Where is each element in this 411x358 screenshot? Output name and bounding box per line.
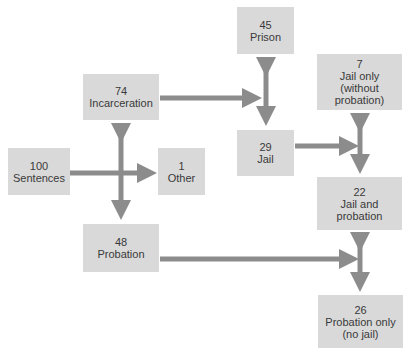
node-value: 1 [178, 160, 184, 172]
node-value: 48 [115, 236, 127, 248]
node-other: 1 Other [158, 148, 205, 195]
node-prison: 45 Prison [237, 7, 294, 54]
node-label: Incarceration [89, 97, 153, 109]
node-label: Probation only [325, 316, 395, 328]
node-label: (without [340, 82, 379, 94]
node-value: 45 [259, 19, 271, 31]
node-jail: 29 Jail [237, 130, 294, 176]
node-label: probation [337, 210, 383, 222]
node-sentences: 100 Sentences [8, 148, 70, 195]
node-jail-and-probation: 22 Jail and probation [317, 177, 402, 230]
node-probation: 48 Probation [83, 224, 159, 272]
node-value: 7 [356, 58, 362, 70]
node-value: 74 [115, 85, 127, 97]
node-label: Sentences [13, 172, 65, 184]
node-label: Prison [250, 31, 281, 43]
node-label: Jail only [340, 70, 380, 82]
node-jail-only: 7 Jail only (without probation) [317, 54, 402, 110]
node-label: Probation [97, 248, 144, 260]
node-label: Jail [257, 153, 274, 165]
node-label: probation) [335, 94, 385, 106]
node-incarceration: 74 Incarceration [83, 74, 159, 120]
node-label: (no jail) [342, 328, 378, 340]
node-value: 26 [354, 304, 366, 316]
node-value: 29 [259, 141, 271, 153]
node-value: 100 [30, 160, 48, 172]
node-label: Other [168, 172, 196, 184]
node-value: 22 [353, 186, 365, 198]
node-probation-only: 26 Probation only (no jail) [318, 295, 403, 348]
node-label: Jail and [341, 198, 379, 210]
